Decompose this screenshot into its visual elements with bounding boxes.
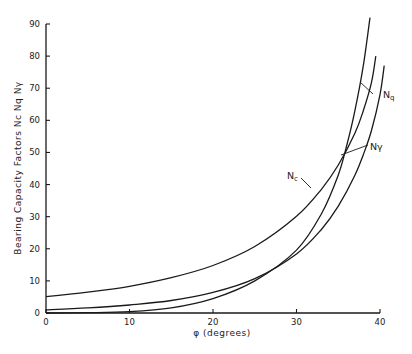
ngamma-label: Nγ (370, 141, 383, 152)
x-axis-label: φ (degrees) (193, 328, 251, 338)
x-tick-label: 30 (291, 317, 302, 327)
nq-label: Nq (383, 89, 395, 102)
curves (46, 18, 384, 313)
x-tick-label: 10 (124, 317, 135, 327)
nc-leader (301, 178, 311, 188)
y-axis-label: Bearing Capacity Factors Nc Nq Nγ (13, 81, 23, 255)
x-tick-label: 40 (375, 317, 386, 327)
y-tick-label: 40 (29, 180, 40, 190)
y-tick-label: 80 (29, 51, 40, 61)
y-tick-label: 90 (29, 19, 40, 29)
y-tick-label: 70 (29, 83, 40, 93)
x-tick-label: 0 (43, 317, 48, 327)
y-tick-label: 10 (29, 276, 40, 286)
y-ticks: 0102030405060708090 (29, 19, 50, 318)
label-leaders (301, 82, 373, 188)
curve-ngamma (46, 18, 370, 313)
nc-label: Nc (287, 170, 298, 183)
curve-nc (46, 56, 376, 297)
y-tick-label: 50 (29, 147, 40, 157)
y-tick-label: 60 (29, 115, 40, 125)
y-tick-label: 30 (29, 212, 40, 222)
x-tick-label: 20 (208, 317, 219, 327)
x-ticks: 010203040 (43, 309, 385, 327)
bearing-capacity-chart: 0102030405060708090 010203040 Nc Nq Nγ φ… (0, 0, 412, 354)
axes (46, 24, 380, 313)
y-tick-label: 20 (29, 244, 40, 254)
y-tick-label: 0 (35, 308, 40, 318)
